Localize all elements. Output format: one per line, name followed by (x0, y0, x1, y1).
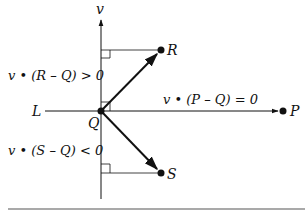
point-q-label: Q (88, 115, 100, 131)
line-l-label: L (31, 103, 41, 119)
point-p-label: P (289, 103, 300, 119)
right-angle-marker-s (101, 164, 110, 173)
vector-diagram: v L Q R S P v • (R – Q) > 0 v • (P – Q) … (0, 0, 306, 211)
point-s-label: S (167, 166, 177, 182)
right-angle-marker-r (101, 50, 110, 58)
equation-p: v • (P – Q) = 0 (163, 92, 258, 107)
equation-s: v • (S – Q) < 0 (8, 143, 103, 158)
v-axis-label: v (96, 1, 104, 17)
point-s (158, 170, 165, 177)
vector-q-to-s (101, 111, 157, 169)
equation-r: v • (R – Q) > 0 (8, 68, 104, 83)
point-r (158, 47, 165, 54)
point-q (98, 108, 105, 115)
vector-q-to-r (101, 54, 157, 111)
point-p (280, 108, 287, 115)
point-r-label: R (166, 42, 178, 58)
